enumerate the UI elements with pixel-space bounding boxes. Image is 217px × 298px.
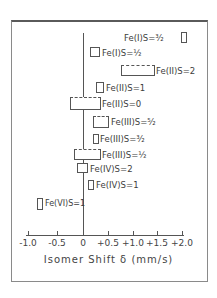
label-fe2-s1: Fe(II)S=1	[106, 83, 145, 93]
label-fe3-s32: Fe(III)S=³⁄₂	[100, 134, 145, 144]
range-box-fe2-s2	[121, 65, 155, 76]
x-tick	[57, 231, 58, 235]
x-tick-label: 0	[80, 238, 86, 248]
label-fe2-s2: Fe(II)S=2	[156, 66, 195, 76]
range-box-fe2-s1	[96, 82, 104, 93]
range-box-fe2-s0	[70, 97, 101, 110]
x-tick-label: +1.5	[146, 238, 168, 248]
label-fe6-s1: Fe(VI)S=1	[45, 199, 85, 209]
range-box-fe4-s2	[77, 163, 88, 173]
range-box-fe3-s12	[74, 149, 101, 160]
x-tick-label: +2.0	[171, 238, 193, 248]
label-fe2-s0: Fe(II)S=0	[102, 99, 141, 109]
label-fe4-s1: Fe(IV)S=1	[96, 180, 139, 190]
label-fe4-s2: Fe(IV)S=2	[90, 164, 133, 174]
x-tick	[108, 231, 109, 235]
x-tick	[83, 231, 84, 235]
label-fe1-s32: Fe(I)S=³⁄₂	[124, 33, 164, 43]
x-axis-title: Isomer Shift δ (mm/s)	[0, 254, 217, 265]
label-fe3-s52: Fe(III)S=⁵⁄₂	[111, 117, 156, 127]
range-box-fe3-s32	[93, 134, 99, 144]
range-box-fe3-s52	[93, 116, 109, 128]
range-box-fe1-s12	[90, 47, 100, 57]
x-tick	[133, 231, 134, 235]
x-tick-label: -0.5	[48, 238, 66, 248]
x-tick-label: -1.0	[19, 238, 37, 248]
x-axis-line	[26, 235, 184, 236]
range-box-fe6-s1	[37, 198, 43, 210]
label-fe1-s12: Fe(I)S=½	[102, 48, 142, 58]
range-box-fe1-s32	[181, 32, 187, 43]
x-tick	[28, 231, 29, 235]
x-tick	[182, 231, 183, 235]
x-tick-label: +0.5	[97, 238, 119, 248]
x-tick-label: +1.0	[122, 238, 144, 248]
range-box-fe4-s1	[88, 180, 94, 190]
x-tick	[157, 231, 158, 235]
label-fe3-s12: Fe(III)S=½	[102, 150, 147, 160]
